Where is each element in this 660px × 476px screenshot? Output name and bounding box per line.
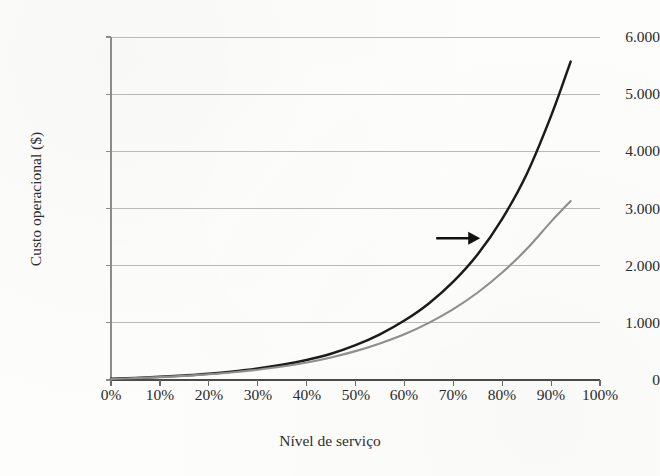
data-series: [111, 62, 571, 379]
axis-ticks: [106, 37, 600, 386]
annotations: [436, 232, 480, 245]
gridlines: [111, 37, 600, 323]
chart-figure: Custo operacional ($) Nível de serviço 6…: [0, 0, 660, 476]
plot-area: [0, 0, 660, 476]
